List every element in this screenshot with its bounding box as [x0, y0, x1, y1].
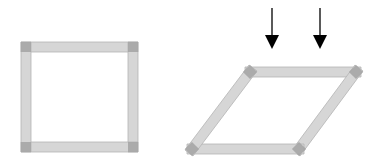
- square-top-bar: [21, 42, 138, 52]
- square-right-bar: [128, 42, 138, 152]
- down-arrow-icon: [265, 8, 279, 49]
- square-joint-2: [128, 142, 138, 152]
- sheared-frame: [185, 65, 363, 156]
- square-joint-0: [21, 42, 31, 52]
- square-bottom-bar: [21, 142, 138, 152]
- sheared-top-bar: [245, 67, 361, 77]
- frame-shear-diagram: [0, 0, 383, 168]
- square-joint-3: [21, 142, 31, 152]
- sheared-right-bar: [292, 65, 363, 156]
- square-joint-1: [128, 42, 138, 52]
- square-left-bar: [21, 42, 31, 152]
- square-frame: [21, 42, 138, 152]
- down-arrow-icon: [313, 8, 327, 49]
- force-arrows: [265, 8, 327, 49]
- sheared-left-bar: [185, 65, 257, 156]
- sheared-bottom-bar: [187, 144, 304, 154]
